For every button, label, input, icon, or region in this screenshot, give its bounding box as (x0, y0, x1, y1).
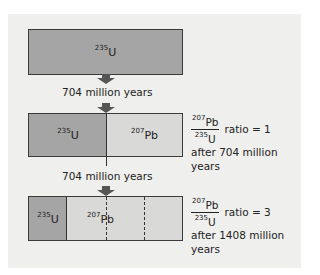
isotope-label-u235: 235U (37, 212, 58, 226)
isotope-label-u235: 235U (95, 45, 116, 59)
isotope-label-pb207: 207Pb (87, 212, 114, 226)
ratio-fraction: 207Pb 235U (191, 196, 219, 228)
ratio-fraction: 207Pb 235U (191, 113, 219, 145)
stage-1-box: 235U (28, 29, 183, 75)
ratio-time: after 704 million (191, 146, 278, 159)
interval-label-2: 704 million years (62, 170, 153, 182)
interval-label-1: 704 million years (62, 86, 153, 98)
lead-segment: 207Pb (67, 197, 182, 240)
uranium-segment: 235U (29, 197, 67, 240)
divider-line (106, 114, 107, 156)
ratio-annotation-1: 207Pb 235U ratio = 1 after 704 million y… (191, 113, 278, 173)
divider-line (66, 197, 67, 240)
uranium-segment: 235U (29, 30, 182, 74)
ratio-time: after 1408 million (191, 229, 284, 242)
dashed-divider (106, 197, 107, 240)
isotope-label-pb207: 207Pb (131, 128, 158, 142)
connector-line (106, 157, 107, 166)
lead-segment: 207Pb (107, 114, 182, 156)
uranium-segment: 235U (29, 114, 107, 156)
isotope-label-u235: 235U (57, 128, 78, 142)
ratio-value: ratio = 3 (224, 206, 270, 218)
stage-3-box: 235U 207Pb (28, 196, 183, 241)
stage-2-box: 235U 207Pb (28, 113, 183, 157)
ratio-value: ratio = 1 (224, 123, 270, 135)
dashed-divider (144, 197, 145, 240)
ratio-annotation-2: 207Pb 235U ratio = 3 after 1408 million … (191, 196, 284, 256)
